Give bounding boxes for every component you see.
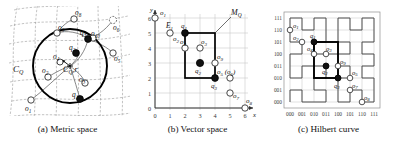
ytick-000: 000: [274, 99, 282, 105]
label-o5: o5: [114, 54, 121, 64]
label-q3: q3: [211, 82, 218, 91]
xtick-4: 4: [213, 112, 216, 119]
label-o3: o3: [201, 38, 208, 47]
point-o8: [242, 105, 248, 111]
ytick-4: 4: [148, 45, 151, 52]
label-o3: o3: [79, 75, 86, 85]
label-o8: o8: [246, 97, 253, 106]
ytick-0: 0: [148, 105, 151, 112]
label-o5: o5: [352, 69, 358, 77]
label-o2: o2: [173, 35, 180, 44]
xtick-011: 011: [322, 111, 330, 117]
vector-yticks: 0 1 2 3 4 5 6: [148, 15, 151, 112]
panel-metric-space: o1 o2 o3 o4 o5 o6 o8 o9 o10 q1 q2 q3 CQ …: [0, 0, 135, 122]
axis-label-x: x: [252, 111, 256, 118]
point-o1: [287, 27, 293, 33]
vector-space-svg: 0 1 2 3 4 5 6 0 1 2 3 4 5 6 y x: [135, 0, 260, 122]
vector-point-labels: o1 o2 o4 o3 o9 o5 (o6) o7 o8 q1 q2 q3 E1…: [160, 8, 253, 106]
point-o2: [299, 39, 305, 45]
xtick-101: 101: [346, 111, 354, 117]
xtick-010: 010: [310, 111, 318, 117]
ytick-1: 1: [148, 90, 151, 97]
label-o6: o6: [113, 23, 120, 33]
ytick-6: 6: [148, 15, 151, 22]
label-o9: o9: [58, 23, 65, 33]
xtick-001: 001: [298, 111, 306, 117]
xtick-100: 100: [334, 111, 342, 117]
caption-hilbert-curve: (c) Hilbert curve: [260, 124, 397, 134]
hilbert-curve-svg: 000 001 010 011 100 101 110 111 000 001 …: [260, 0, 397, 122]
label-o8: o8: [75, 8, 82, 18]
ytick-111: 111: [274, 15, 282, 21]
hilbert-yticks: 000 001 010 011 100 101 110 111: [274, 15, 282, 105]
figure-container: o1 o2 o3 o4 o5 o6 o8 o9 o10 q1 q2 q3 CQ …: [0, 0, 397, 147]
label-cq-outer: CQ: [13, 64, 24, 75]
point-q1: [182, 30, 189, 37]
caption-vector-space: (b) Vector space: [135, 124, 260, 134]
hilbert-grid: [290, 18, 374, 102]
xtick-1: 1: [168, 112, 171, 119]
point-o1: [152, 15, 158, 21]
label-e1: E1: [165, 21, 173, 31]
hilbert-xticks: 000 001 010 011 100 101 110 111: [286, 111, 378, 117]
xtick-5: 5: [228, 112, 231, 119]
caption-metric-space: (a) Metric space: [0, 124, 135, 134]
label-o5-o6: o5 (o6): [217, 68, 236, 77]
xtick-111: 111: [370, 111, 378, 117]
ytick-110: 110: [274, 27, 282, 33]
mbr-leader-line: [215, 17, 231, 33]
label-q2: q2: [69, 43, 76, 53]
xtick-0: 0: [153, 112, 156, 119]
metric-space-svg: o1 o2 o3 o4 o5 o6 o8 o9 o10 q1 q2 q3 CQ …: [0, 0, 135, 122]
panel-vector-space: 0 1 2 3 4 5 6 0 1 2 3 4 5 6 y x: [135, 0, 260, 122]
label-o9: o9: [217, 53, 224, 62]
ytick-5: 5: [148, 30, 151, 37]
ytick-2: 2: [148, 75, 151, 82]
ytick-011: 011: [274, 63, 282, 69]
xtick-3: 3: [198, 112, 201, 119]
caption-row: (a) Metric space (b) Vector space (c) Hi…: [0, 122, 397, 147]
label-o4: o4: [307, 45, 313, 53]
ytick-101: 101: [274, 39, 282, 45]
ytick-001: 001: [274, 87, 282, 93]
label-q3: q3: [80, 28, 87, 38]
label-q2: q2: [195, 67, 202, 76]
ytick-100: 100: [274, 51, 282, 57]
label-o1: o1: [293, 22, 299, 30]
vector-xticks: 0 1 2 3 4 5 6: [153, 112, 246, 119]
point-o5: [347, 75, 353, 81]
label-q2: q2: [322, 68, 328, 76]
label-o1: o1: [25, 104, 32, 114]
point-o1: [28, 97, 34, 103]
label-q1: q1: [181, 22, 187, 31]
xtick-2: 2: [183, 112, 186, 119]
label-mq: MQ: [230, 8, 242, 18]
panel-hilbert-curve: 000 001 010 011 100 101 110 111 000 001 …: [260, 0, 397, 122]
xtick-6: 6: [243, 112, 246, 119]
label-o1: o1: [160, 9, 166, 18]
point-q2: [196, 59, 203, 66]
ytick-010: 010: [274, 75, 282, 81]
point-o3: [323, 51, 329, 57]
xtick-110: 110: [358, 111, 366, 117]
ytick-3: 3: [148, 60, 151, 67]
xtick-000: 000: [286, 111, 294, 117]
label-o4: o4: [53, 52, 60, 62]
label-q1: q1: [310, 32, 316, 40]
hilbert-path: [290, 18, 374, 102]
point-q3: [335, 75, 341, 81]
label-o2: o2: [293, 34, 299, 42]
label-q3: q3: [334, 82, 340, 90]
label-o2: o2: [42, 66, 49, 76]
axis-label-y: y: [149, 6, 153, 13]
label-o7: o7: [233, 92, 240, 101]
